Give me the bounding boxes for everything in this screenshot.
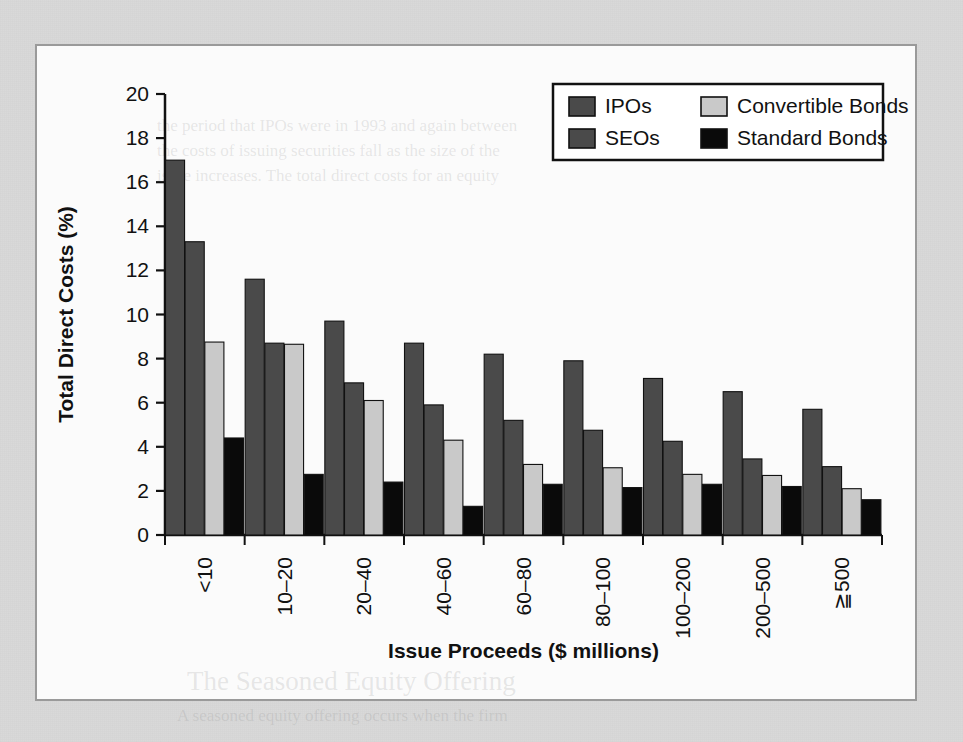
y-axis-tick-label: 4 <box>137 435 149 458</box>
bar <box>623 488 642 535</box>
y-axis-tick-label: 12 <box>126 258 149 281</box>
bar <box>424 405 443 535</box>
legend: IPOsSEOsConvertible BondsStandard Bonds <box>553 84 909 160</box>
bar-group <box>803 409 881 535</box>
x-axis-category-label: 100–200 <box>671 557 694 639</box>
bar <box>285 344 304 535</box>
x-axis-category-label: 200–500 <box>751 557 774 639</box>
bars-layer <box>166 160 881 535</box>
bar <box>603 468 622 535</box>
x-axis-category-label: ≧500 <box>830 557 853 610</box>
bar <box>564 361 583 535</box>
bar <box>782 486 801 535</box>
bar <box>225 438 244 535</box>
bar <box>405 343 424 535</box>
bar <box>663 441 682 535</box>
y-axis-tick-label: 18 <box>126 126 149 149</box>
bar-group <box>166 160 244 535</box>
bar <box>384 482 403 535</box>
y-axis-tick-label: 0 <box>137 523 149 546</box>
x-axis-category-label: 80–100 <box>591 557 614 627</box>
bar <box>723 392 742 535</box>
legend-item: SEOs <box>569 126 660 149</box>
bar <box>823 467 842 535</box>
bar <box>683 474 702 535</box>
bar-group <box>325 321 403 535</box>
bar <box>803 409 822 535</box>
bar <box>703 484 722 535</box>
bar <box>166 160 185 535</box>
legend-swatch <box>701 129 727 148</box>
bar <box>205 342 224 535</box>
bar-group <box>484 354 562 535</box>
y-axis-tick-label: 20 <box>126 82 149 105</box>
y-axis-tick-label: 8 <box>137 347 149 370</box>
legend-swatch <box>569 97 595 116</box>
legend-label: SEOs <box>605 126 660 149</box>
bar <box>245 279 264 535</box>
legend-swatch <box>701 97 727 116</box>
bar <box>325 321 344 535</box>
bar <box>304 474 323 535</box>
bar <box>763 475 782 535</box>
bar <box>842 489 861 535</box>
y-axis-tick-label: 6 <box>137 391 149 414</box>
bar <box>364 401 383 536</box>
legend-label: IPOs <box>605 94 652 117</box>
bar <box>584 430 603 535</box>
bar-group <box>405 343 483 535</box>
bar <box>185 242 204 535</box>
y-axis-tick-label: 10 <box>126 303 149 326</box>
bar-group <box>564 361 642 535</box>
bar <box>504 420 523 535</box>
legend-label: Standard Bonds <box>737 126 888 149</box>
legend-label: Convertible Bonds <box>737 94 909 117</box>
bar <box>743 459 762 535</box>
x-axis-category-label: 20–40 <box>352 557 375 615</box>
bar-group <box>644 378 722 535</box>
bar <box>524 464 543 535</box>
bar-group <box>245 279 323 535</box>
bar-group <box>723 392 801 535</box>
x-axis-category-label: 60–80 <box>512 557 535 615</box>
x-axis-category-label: 10–20 <box>273 557 296 615</box>
bar <box>644 378 663 535</box>
bar <box>464 506 483 535</box>
bar <box>484 354 503 535</box>
figure-panel: the period that IPOs were in 1993 and ag… <box>35 44 917 701</box>
bar <box>345 383 364 535</box>
x-axis-title: Issue Proceeds ($ millions) <box>388 639 659 662</box>
legend-item: IPOs <box>569 94 652 117</box>
bar <box>444 440 463 535</box>
x-axis-category-label: <10 <box>193 557 216 593</box>
legend-swatch <box>569 129 595 148</box>
y-axis-title: Total Direct Costs (%) <box>54 206 77 423</box>
bar <box>862 500 881 535</box>
bar <box>265 343 284 535</box>
y-axis-tick-label: 16 <box>126 170 149 193</box>
x-axis-category-label: 40–60 <box>432 557 455 615</box>
bar <box>543 484 562 535</box>
y-axis-tick-label: 2 <box>137 479 149 502</box>
bar-chart: 02468101214161820Total Direct Costs (%)<… <box>37 46 915 699</box>
y-axis-tick-label: 14 <box>126 214 150 237</box>
